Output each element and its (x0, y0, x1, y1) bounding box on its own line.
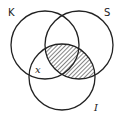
set-label-s: S (104, 7, 110, 18)
set-label-i: I (93, 102, 99, 113)
set-label-k: K (8, 7, 15, 18)
venn-diagram: K S I x (0, 0, 119, 119)
region-label-x: x (35, 64, 41, 75)
